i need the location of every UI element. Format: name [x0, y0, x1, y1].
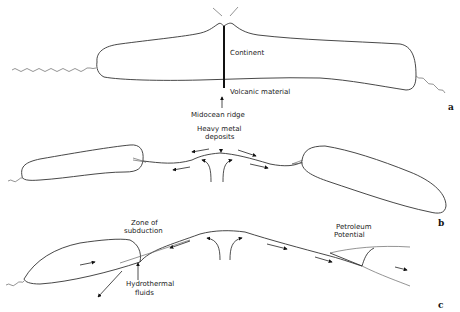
deposit-marker-icon: [219, 149, 223, 153]
plate-tectonics-diagram: Continent Volcanic material Midocean rid…: [0, 0, 460, 312]
arrow-icon: [250, 164, 268, 168]
arrow-icon: [80, 262, 95, 265]
continent-label: Continent: [230, 49, 264, 57]
arrow-icon: [238, 150, 256, 156]
panel-b: Heavy metal deposits b: [8, 125, 446, 228]
panel-c: Zone of subduction Petroleum Potential H…: [6, 219, 444, 310]
panel-label-a: a: [448, 102, 454, 112]
ocean-floor-b: [143, 153, 302, 166]
petroleum-trap: [330, 248, 374, 266]
panel-label-b: b: [438, 218, 444, 228]
continent-b-left: [22, 145, 144, 180]
petroleum-label-line1: Petroleum: [336, 223, 372, 231]
slab-line: [120, 240, 190, 263]
hydrothermal-label-line2: fluids: [135, 289, 154, 297]
panel-a: Continent Volcanic material Midocean rid…: [12, 7, 454, 119]
arrow-icon: [170, 241, 190, 248]
heavy-metal-label-line1: Heavy metal: [197, 125, 242, 133]
panel-label-c: c: [438, 300, 444, 310]
sediment-wedges: [133, 158, 303, 164]
upwelling-arrow-right-icon: [223, 160, 232, 182]
heavy-metal-label-line2: deposits: [205, 133, 235, 141]
ocean-wave-c-left: [6, 281, 24, 286]
rift-fracture: [213, 7, 238, 16]
hydrothermal-label-line1: Hydrothermal: [126, 280, 174, 288]
continent-c-right: [330, 246, 410, 286]
volcanic-material-label: Volcanic material: [230, 88, 290, 96]
arrow-icon: [395, 267, 407, 270]
upwelling-arrow-left-icon: [202, 160, 211, 182]
arrow-icon: [192, 149, 209, 152]
petroleum-label-line2: Potential: [334, 231, 365, 239]
midocean-ridge-label: Midocean ridge: [191, 111, 245, 119]
arrow-icon: [98, 271, 122, 297]
continent-c-left: [24, 239, 141, 284]
subduction-label-line1: Zone of: [131, 219, 158, 227]
subduction-label-line2: subduction: [124, 227, 163, 235]
arrow-icon: [173, 167, 190, 170]
upwelling-arrow-left-icon: [207, 238, 220, 260]
ocean-wave-b-left: [8, 178, 23, 182]
arrow-icon: [267, 244, 287, 249]
upwelling-arrow-right-icon: [230, 238, 242, 260]
ocean-wave-right: [416, 76, 445, 93]
continent-b-right: [302, 146, 446, 213]
arrow-icon: [315, 257, 332, 262]
ocean-wave-left: [12, 68, 96, 72]
